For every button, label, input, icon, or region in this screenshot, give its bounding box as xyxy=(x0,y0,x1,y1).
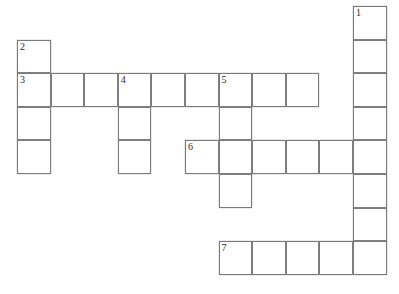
crossword-cell-numbered[interactable]: 5 xyxy=(219,73,253,107)
crossword-cell[interactable] xyxy=(319,140,353,174)
clue-number: 1 xyxy=(356,7,361,18)
crossword-cell[interactable] xyxy=(151,73,185,107)
clue-number: 6 xyxy=(188,141,193,152)
clue-number: 3 xyxy=(20,74,25,85)
crossword-cell[interactable] xyxy=(286,241,320,275)
crossword-cell[interactable] xyxy=(185,73,219,107)
clue-number: 5 xyxy=(222,74,227,85)
crossword-cell[interactable] xyxy=(286,73,320,107)
clue-number: 2 xyxy=(20,41,25,52)
crossword-cell-numbered[interactable]: 7 xyxy=(219,241,253,275)
clue-number: 7 xyxy=(222,242,227,253)
crossword-cell[interactable] xyxy=(118,140,152,174)
crossword-cell[interactable] xyxy=(353,208,387,242)
clue-number: 4 xyxy=(121,74,126,85)
crossword-cell[interactable] xyxy=(319,241,353,275)
crossword-cell-numbered[interactable]: 1 xyxy=(353,6,387,40)
crossword-cell[interactable] xyxy=(353,73,387,107)
crossword-cell[interactable] xyxy=(252,140,286,174)
crossword-cell[interactable] xyxy=(252,241,286,275)
crossword-cell-numbered[interactable]: 3 xyxy=(17,73,51,107)
crossword-cell-numbered[interactable]: 2 xyxy=(17,40,51,74)
crossword-cell[interactable] xyxy=(17,140,51,174)
crossword-cell[interactable] xyxy=(219,140,253,174)
crossword-cell[interactable] xyxy=(84,73,118,107)
crossword-cell-numbered[interactable]: 4 xyxy=(118,73,152,107)
crossword-cell[interactable] xyxy=(353,174,387,208)
crossword-cell[interactable] xyxy=(353,107,387,141)
crossword-cell[interactable] xyxy=(51,73,85,107)
crossword-cell[interactable] xyxy=(286,140,320,174)
crossword-cell[interactable] xyxy=(219,174,253,208)
crossword-cell[interactable] xyxy=(219,107,253,141)
crossword-cell[interactable] xyxy=(17,107,51,141)
crossword-cell[interactable] xyxy=(353,40,387,74)
crossword-cell[interactable] xyxy=(118,107,152,141)
crossword-cell[interactable] xyxy=(353,241,387,275)
crossword-cell-numbered[interactable]: 6 xyxy=(185,140,219,174)
crossword-cell[interactable] xyxy=(353,140,387,174)
crossword-grid: 1234567 xyxy=(0,0,399,294)
crossword-cell[interactable] xyxy=(252,73,286,107)
